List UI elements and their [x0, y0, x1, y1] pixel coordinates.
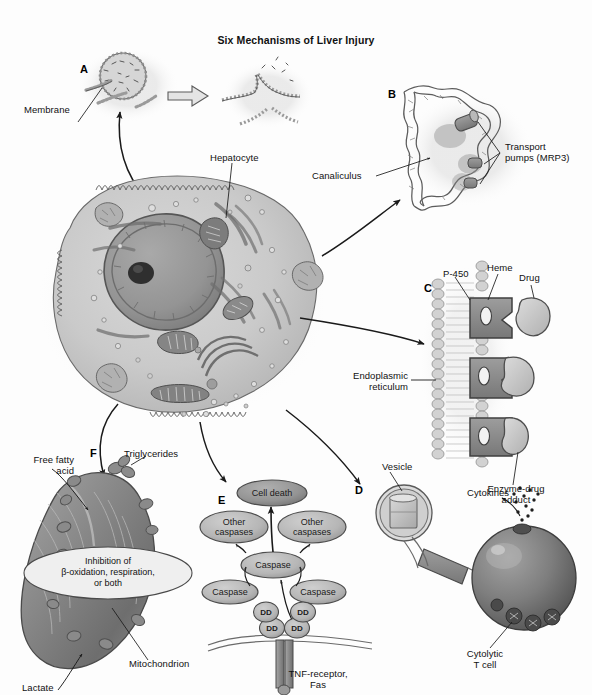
mitochondrion-inner-3	[158, 331, 199, 353]
heme-icon-2	[479, 367, 490, 385]
label-canaliculus: Canaliculus	[312, 170, 362, 181]
nucleolus	[128, 262, 154, 284]
heme-icon-3	[479, 427, 490, 445]
drug-molecule-icon-2	[501, 357, 534, 396]
enzyme-drug-adduct-icon	[502, 418, 528, 455]
node-label-dd-1: DD	[256, 608, 276, 617]
label-triglycerides: Triglycerides	[124, 448, 178, 459]
panel-letter-e: E	[218, 494, 225, 506]
node-label-caspase-right: Caspase	[288, 587, 348, 597]
label-mitochondrion: Mitochondrion	[129, 658, 189, 669]
mitochondrion-inner-4	[151, 385, 209, 403]
node-label-other-caspases-right: Other caspases	[282, 517, 342, 537]
label-transport-pumps: Transport pumps (MRP3)	[505, 141, 569, 163]
leader-cytolytic-t-cell	[490, 622, 512, 648]
transport-pump-icon-3	[464, 178, 477, 188]
drug-molecule-icon-1	[516, 298, 550, 336]
panel-letter-f: F	[90, 447, 97, 459]
label-endoplasmic-reticulum: Endoplasmic reticulum	[300, 370, 408, 392]
membrane-bleb-intact	[100, 53, 146, 99]
antigen-presentation-stalk	[404, 537, 482, 590]
panel-letter-a: A	[80, 63, 88, 75]
label-membrane: Membrane	[24, 104, 70, 115]
node-label-dd-2: DD	[293, 608, 313, 617]
membrane-fragments-ruptured	[222, 57, 314, 129]
arrow-b-to-canaliculus	[322, 200, 400, 256]
label-drug: Drug	[519, 272, 540, 283]
hepatocyte-cell	[32, 163, 332, 424]
node-label-dd-3: DD	[262, 624, 282, 633]
node-label-cell-death: Cell death	[237, 488, 307, 498]
panel-letter-b: B	[388, 88, 396, 100]
label-p450: P-450	[443, 268, 469, 279]
node-label-other-caspases-left: Other caspases	[204, 517, 264, 537]
vesicle-icon	[376, 485, 432, 541]
cytolytic-t-cell	[472, 524, 576, 631]
leader-drug	[531, 285, 534, 298]
node-label-caspase-center: Caspase	[243, 560, 303, 570]
arrow-e-to-cell-death	[200, 422, 226, 482]
label-heme: Heme	[487, 262, 513, 273]
label-vesicle: Vesicle	[382, 461, 412, 472]
label-lactate: Lactate	[22, 682, 54, 693]
label-free-fatty-acid: Free fatty acid	[2, 454, 74, 476]
arrow-d-to-vesicle	[286, 410, 360, 484]
label-hepatocyte: Hepatocyte	[210, 152, 259, 163]
label-tnf-receptor: TNF-receptor, Fas	[272, 668, 364, 690]
panel-e-caspase-cascade-group	[200, 422, 372, 695]
label-cytokines: Cytokines	[467, 487, 509, 498]
panel-letter-d: D	[355, 484, 363, 496]
junction-complex-icon-3	[96, 364, 127, 393]
junction-complex-icon-1	[95, 203, 123, 227]
p450-enzyme-icon-1	[470, 298, 512, 338]
node-label-caspase-left: Caspase	[200, 587, 260, 597]
node-label-dd-4: DD	[287, 624, 307, 633]
mitochondrion-inner-1	[200, 218, 229, 249]
panel-f-mitochondrion-group	[21, 404, 192, 690]
liver-injury-diagram: Six Mechanisms of Liver Injury	[0, 0, 592, 695]
panel-letter-c: C	[424, 282, 432, 294]
balloon-inhibition-text: Inhibition of β-oxidation, respiration, …	[26, 556, 190, 589]
junction-complex-icon-2	[292, 262, 323, 291]
panel-a-membrane-group	[76, 47, 314, 198]
heme-icon-1	[481, 307, 492, 325]
transport-pump-icon-2	[468, 158, 482, 168]
label-cytolytic-t-cell: Cytolytic T cell	[440, 648, 530, 670]
